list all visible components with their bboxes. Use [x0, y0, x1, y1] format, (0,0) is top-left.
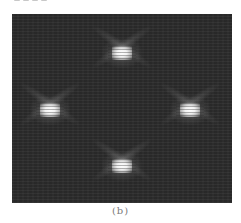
cropped-text-fragment [14, 0, 54, 3]
bright-spot-right [170, 95, 210, 125]
figure-image [12, 14, 232, 203]
bright-spot-left [30, 95, 70, 125]
bright-spot-top [102, 38, 142, 68]
figure-caption: (b) [0, 205, 241, 216]
bright-spot-bottom [102, 151, 142, 181]
